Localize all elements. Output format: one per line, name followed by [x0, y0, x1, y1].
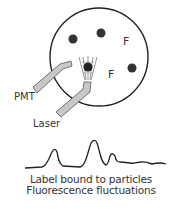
sample-circle	[50, 8, 148, 106]
focal-volume	[79, 56, 97, 80]
particle-dot	[128, 64, 137, 73]
particle-dot	[69, 35, 78, 44]
pmt-label: PMT	[14, 91, 36, 102]
free-label-marker: F	[108, 68, 114, 81]
fluorescence-trace	[25, 140, 166, 168]
excited-particle-dot	[84, 63, 93, 72]
caption-line-2: Fluorescence fluctuations	[0, 185, 182, 196]
pmt-probe	[33, 61, 72, 93]
free-label-marker: F	[123, 35, 129, 48]
particle-dot	[97, 29, 106, 38]
laser-label: Laser	[33, 118, 61, 129]
